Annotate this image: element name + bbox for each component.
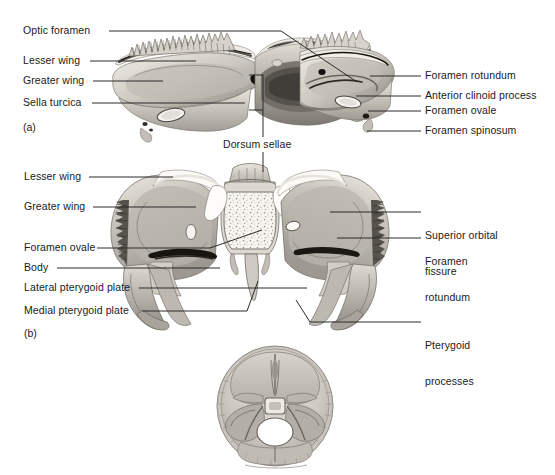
label-foramen-rotundum-b-line2: rotundum: [425, 291, 470, 303]
inset-cranial-floor-illustration: [205, 344, 345, 470]
label-lesser-wing-a: Lesser wing: [23, 54, 80, 66]
label-greater-wing-b: Greater wing: [24, 200, 85, 212]
label-lesser-wing-b: Lesser wing: [24, 170, 81, 182]
label-optic-foramen: Optic foramen: [23, 24, 90, 36]
label-foramen-rotundum-b-line1: Foramen: [425, 255, 470, 267]
label-foramen-rotundum-a: Foramen rotundum: [425, 69, 516, 81]
panel-a-illustration-right-wing: [300, 26, 420, 146]
label-pterygoid-processes-line1: Pterygoid: [425, 339, 474, 351]
anatomy-figure-sphenoid-bone: Optic foramen Lesser wing Greater wing S…: [0, 0, 555, 475]
label-body: Body: [24, 261, 48, 273]
panel-tag-a: (a): [23, 121, 36, 133]
label-foramen-ovale-b: Foramen ovale: [24, 241, 95, 253]
label-foramen-ovale-a: Foramen ovale: [425, 104, 496, 116]
label-pterygoid-processes-line2: processes: [425, 375, 474, 387]
label-medial-pterygoid-plate: Medial pterygoid plate: [24, 304, 129, 316]
label-anterior-clinoid-process: Anterior clinoid process: [425, 89, 537, 101]
panel-tag-b: (b): [24, 327, 37, 339]
panel-b-illustration: [95, 162, 425, 334]
label-greater-wing-a: Greater wing: [23, 74, 84, 86]
label-foramen-rotundum-b: Foramen rotundum: [425, 231, 470, 327]
label-lateral-pterygoid-plate: Lateral pterygoid plate: [24, 281, 130, 293]
label-sella-turcica: Sella turcica: [23, 96, 82, 108]
label-foramen-spinosum: Foramen spinosum: [425, 124, 516, 136]
label-dorsum-sellae: Dorsum sellae: [223, 138, 291, 150]
label-pterygoid-processes: Pterygoid processes: [425, 315, 474, 411]
